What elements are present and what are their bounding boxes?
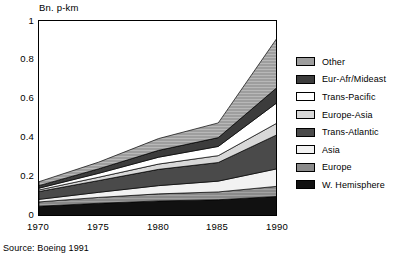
y-tick-label: 0.6 (20, 92, 34, 103)
legend-swatch-icon (296, 75, 315, 84)
plot-area (38, 20, 277, 216)
legend-item-trans-pacific[interactable]: Trans-Pacific (296, 88, 386, 106)
legend-swatch-icon (296, 180, 315, 189)
x-tick-label: 1985 (197, 221, 237, 232)
legend-item-other[interactable]: Other (296, 53, 386, 71)
source-note: Source: Boeing 1991 (3, 243, 89, 253)
legend-label: Europe-Asia (322, 110, 373, 120)
legend-label: Other (322, 57, 345, 67)
legend-label: Asia (322, 145, 340, 155)
legend-swatch-icon (296, 163, 315, 172)
legend-item-eur-afr-mideast[interactable]: Eur-Afr/Mideast (296, 71, 386, 89)
x-tick-label: 1980 (138, 221, 178, 232)
legend-label: Eur-Afr/Mideast (322, 74, 386, 84)
legend-label: Trans-Pacific (322, 92, 375, 102)
y-tick-label: 1 (29, 15, 34, 26)
y-tick-label: 0.2 (20, 170, 34, 181)
stacked-area-plot (39, 21, 277, 216)
y-tick-label: 0.8 (20, 53, 34, 64)
legend-label: Trans-Atlantic (322, 127, 379, 137)
legend-item-trans-atlantic[interactable]: Trans-Atlantic (296, 123, 386, 141)
x-tick-label: 1990 (257, 221, 297, 232)
legend-swatch-icon (296, 57, 315, 66)
y-axis-title: Bn. p-km (39, 2, 79, 13)
legend-item-w-hemisphere[interactable]: W. Hemisphere (296, 176, 386, 194)
legend-label: Europe (322, 162, 352, 172)
legend-item-europe-asia[interactable]: Europe-Asia (296, 106, 386, 124)
legend-item-asia[interactable]: Asia (296, 141, 386, 159)
x-tick-label: 1970 (18, 221, 58, 232)
legend-swatch-icon (296, 110, 315, 119)
legend-swatch-icon (296, 145, 315, 154)
legend-swatch-icon (296, 92, 315, 101)
chart-figure: Bn. p-km 1 0.8 0.6 0.4 0.2 0 (0, 0, 397, 259)
y-tick-label: 0 (29, 209, 34, 220)
chart-legend: Other Eur-Afr/Mideast Trans-Pacific Euro… (296, 53, 386, 194)
y-tick-label: 0.4 (20, 131, 34, 142)
legend-swatch-icon (296, 128, 315, 137)
legend-item-europe[interactable]: Europe (296, 159, 386, 177)
x-tick-label: 1975 (78, 221, 118, 232)
legend-label: W. Hemisphere (322, 180, 385, 190)
